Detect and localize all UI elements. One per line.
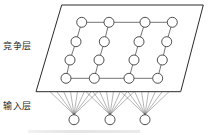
competition-node — [89, 73, 99, 83]
competition-node — [167, 17, 177, 27]
competition-layer-label: 竞争层 — [3, 39, 32, 52]
input-node — [69, 115, 79, 125]
competition-node — [153, 73, 163, 83]
competition-node — [162, 37, 172, 47]
competition-node — [124, 73, 134, 83]
input-layer-label: 输入层 — [3, 99, 32, 112]
competition-node — [61, 73, 71, 83]
competition-node — [94, 55, 104, 65]
competition-node — [134, 37, 144, 47]
input-node — [140, 115, 150, 125]
fan-line — [121, 92, 145, 115]
competition-node — [71, 37, 81, 47]
fan-line — [145, 92, 169, 115]
competition-node — [157, 55, 167, 65]
competition-node — [129, 55, 139, 65]
input-node — [105, 115, 115, 125]
som-network-diagram — [0, 0, 211, 135]
input-fan-connections — [50, 92, 169, 115]
competition-node — [140, 17, 150, 27]
competition-node — [99, 37, 109, 47]
fan-line — [86, 92, 110, 115]
fan-line — [74, 92, 98, 115]
competition-node — [65, 55, 75, 65]
competition-node — [104, 17, 114, 27]
competition-node — [77, 17, 87, 27]
fan-line — [50, 92, 74, 115]
figure-caption-cropped — [28, 130, 140, 133]
input-nodes — [69, 115, 150, 125]
